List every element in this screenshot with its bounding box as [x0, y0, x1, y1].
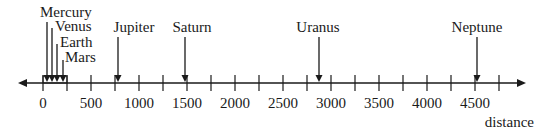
planet-label: Jupiter [114, 19, 155, 35]
right-arrow-icon [517, 79, 526, 87]
axis-tick-labels: 050010001500200025003000350040004500 [39, 95, 490, 111]
arrow-down-icon [60, 75, 67, 82]
planet-label: Uranus [296, 19, 339, 35]
tick-label: 3500 [364, 95, 394, 111]
arrow-down-icon [54, 75, 61, 82]
planet-label: Mars [65, 49, 96, 65]
tick-label: 4000 [412, 95, 442, 111]
number-line-axis [18, 79, 526, 87]
tick-label: 2500 [268, 95, 298, 111]
number-line-diagram: 050010001500200025003000350040004500 Mer… [0, 0, 544, 139]
tick-label: 1000 [124, 95, 154, 111]
arrow-down-icon [316, 75, 323, 82]
planet-marker-jupiter: Jupiter [114, 19, 155, 82]
planet-label: Neptune [452, 19, 503, 35]
planet-label: Earth [60, 34, 93, 50]
planet-marker-uranus: Uranus [296, 19, 339, 82]
tick-label: 500 [80, 95, 103, 111]
planet-marker-neptune: Neptune [452, 19, 503, 82]
planet-label: Saturn [172, 19, 212, 35]
planet-label: Venus [55, 18, 92, 34]
left-arrow-icon [18, 79, 27, 87]
tick-label: 1500 [172, 95, 202, 111]
tick-label: 4500 [460, 95, 490, 111]
planet-marker-saturn: Saturn [172, 19, 212, 82]
tick-label: 3000 [316, 95, 346, 111]
axis-label-distance: distance [485, 114, 534, 130]
tick-label: 0 [39, 95, 47, 111]
tick-label: 2000 [220, 95, 250, 111]
planet-markers: MercuryVenusEarthMarsJupiterSaturnUranus… [40, 4, 503, 83]
